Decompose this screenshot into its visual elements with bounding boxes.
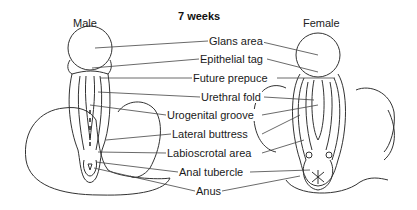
label-urethral-fold: Urethral fold — [200, 91, 262, 103]
diagram-title: 7 weeks — [178, 10, 220, 22]
female-caption: Female — [303, 17, 340, 29]
label-anal-tubercle: Anal tubercle — [178, 166, 244, 178]
male-genitalia-drawing — [25, 26, 170, 195]
label-future-prepuce: Future prepuce — [192, 72, 269, 84]
label-epithelial-tag: Epithelial tag — [199, 53, 264, 65]
male-caption: Male — [73, 17, 97, 29]
label-glans-area: Glans area — [208, 35, 264, 47]
diagram-drawing — [0, 0, 417, 210]
label-labioscrotal-area: Labioscrotal area — [166, 147, 252, 159]
label-urogenital-groove: Urogenital groove — [166, 109, 255, 121]
embryology-diagram: 7 weeks Male Female Glans area Epithelia… — [0, 0, 417, 210]
label-anus: Anus — [195, 185, 222, 197]
label-lateral-buttress: Lateral buttress — [171, 128, 249, 140]
